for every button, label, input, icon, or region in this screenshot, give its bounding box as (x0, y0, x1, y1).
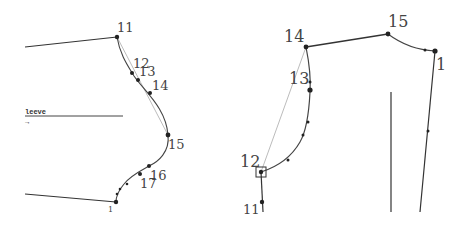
point-label-1: 1 (436, 55, 446, 74)
point-marker[interactable] (114, 200, 118, 204)
point-label-12: 12 (240, 152, 260, 171)
point-label-14: 14 (152, 78, 169, 93)
armhole-curve (261, 47, 310, 172)
point-marker[interactable] (126, 183, 129, 186)
point-marker[interactable] (427, 130, 430, 133)
point-label-15: 15 (388, 12, 408, 31)
point-marker[interactable] (115, 35, 119, 39)
point-label-1: 1 (108, 205, 113, 214)
pattern-diagram: leeve → 11 12 13 14 15 16 17 1 (0, 0, 469, 229)
point-marker[interactable] (307, 87, 312, 92)
point-label-17: 17 (140, 176, 157, 191)
sleeve-panel: leeve → 11 12 13 14 15 16 17 1 (25, 20, 185, 214)
grain-arrow: → (25, 118, 30, 126)
point-marker[interactable] (302, 134, 305, 137)
point-label-15: 15 (168, 137, 185, 152)
point-marker[interactable] (424, 49, 427, 52)
side-seam-line (261, 172, 263, 212)
sleeve-bottom-line (25, 194, 116, 202)
point-marker[interactable] (116, 193, 119, 196)
point-marker[interactable] (130, 71, 134, 75)
neckline-curve (388, 34, 435, 51)
point-marker[interactable] (386, 32, 391, 37)
point-marker[interactable] (287, 159, 290, 162)
point-label-11: 11 (243, 202, 260, 217)
point-label-11: 11 (117, 20, 134, 35)
point-marker[interactable] (307, 121, 310, 124)
sleeve-top-line (25, 37, 117, 47)
point-label-13: 13 (139, 64, 156, 79)
bodice-panel: 14 13 15 1 12 11 (240, 12, 446, 217)
point-label-14: 14 (284, 27, 304, 46)
armhole-guide-line (261, 47, 306, 172)
shoulder-line (306, 34, 388, 47)
point-marker[interactable] (260, 200, 264, 204)
point-marker[interactable] (432, 48, 437, 53)
point-marker[interactable] (119, 188, 122, 191)
sleeve-tag-label: leeve (25, 108, 46, 116)
point-label-13: 13 (289, 69, 309, 88)
